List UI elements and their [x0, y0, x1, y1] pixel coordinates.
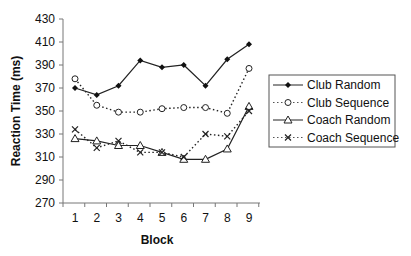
triangle-marker: [71, 135, 79, 142]
x-tick-label: 8: [224, 211, 231, 225]
legend-label: Coach Sequence: [307, 131, 399, 145]
legend-label: Club Random: [307, 78, 380, 92]
circle-marker: [137, 109, 143, 115]
triangle-marker: [223, 145, 231, 152]
y-tick-label: 310: [35, 150, 55, 164]
y-tick-label: 350: [35, 104, 55, 118]
y-tick-label: 330: [35, 127, 55, 141]
x-tick-label: 2: [93, 211, 100, 225]
x-tick-label: 5: [159, 211, 166, 225]
circle-marker: [246, 65, 252, 71]
circle-marker: [224, 110, 230, 116]
series-club-sequence: [72, 65, 252, 116]
series-layer: [71, 41, 253, 162]
diamond-marker: [94, 92, 100, 98]
axes: 270290310330350370390410430123456789: [35, 12, 260, 225]
legend-label: Coach Random: [307, 113, 390, 127]
legend: Club RandomClub SequenceCoach RandomCoac…: [269, 75, 399, 147]
y-tick-label: 290: [35, 173, 55, 187]
diamond-marker: [159, 64, 165, 70]
y-tick-label: 430: [35, 12, 55, 26]
x-marker: [137, 149, 143, 155]
y-tick-label: 410: [35, 35, 55, 49]
x-marker: [94, 145, 100, 151]
circle-marker: [159, 106, 165, 112]
y-tick-label: 270: [35, 196, 55, 210]
x-tick-label: 1: [72, 211, 79, 225]
circle-marker: [181, 105, 187, 111]
y-axis-title: Reaction Time (ms): [9, 56, 23, 166]
series-club-random: [72, 41, 252, 98]
line-chart: 270290310330350370390410430123456789 Clu…: [0, 0, 411, 256]
x-marker: [224, 133, 230, 139]
x-tick-label: 6: [180, 211, 187, 225]
x-axis-title: Block: [141, 233, 174, 247]
circle-marker: [285, 100, 291, 106]
circle-marker: [116, 109, 122, 115]
x-tick-label: 7: [202, 211, 209, 225]
circle-marker: [203, 105, 209, 111]
x-tick-label: 3: [115, 211, 122, 225]
circle-marker: [94, 102, 100, 108]
diamond-marker: [72, 85, 78, 91]
y-tick-label: 390: [35, 58, 55, 72]
legend-label: Club Sequence: [307, 96, 389, 110]
x-tick-label: 9: [246, 211, 253, 225]
circle-marker: [72, 76, 78, 82]
x-tick-label: 4: [137, 211, 144, 225]
y-tick-label: 370: [35, 81, 55, 95]
x-marker: [203, 131, 209, 137]
x-marker: [72, 126, 78, 132]
